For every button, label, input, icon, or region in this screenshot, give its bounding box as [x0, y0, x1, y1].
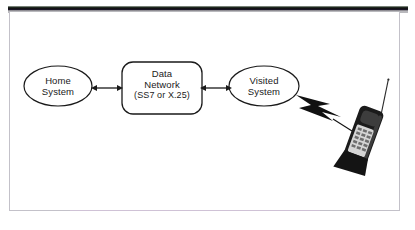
- lightning-bolt-tail: [333, 119, 352, 131]
- node-visited-system-line2: System: [229, 86, 299, 97]
- node-data-network-line1: Data: [120, 68, 204, 79]
- node-home-system-line2: System: [24, 86, 92, 97]
- diagram-canvas: [0, 0, 415, 230]
- node-data-network-line2: Network: [120, 79, 204, 90]
- node-visited-system-line1: Visited: [229, 75, 299, 86]
- mobile-phone: [333, 71, 399, 178]
- node-data-network-line3: (SS7 or X.25): [120, 90, 204, 101]
- connector-lightning-bolt: [296, 95, 341, 121]
- phone-antenna: [377, 80, 393, 114]
- node-home-system-line1: Home: [24, 75, 92, 86]
- phone-antenna-tip: [387, 78, 390, 81]
- node-visited-system-label: Visited System: [229, 75, 299, 97]
- node-home-system-label: Home System: [24, 75, 92, 97]
- scanned-figure: Home System Data Network (SS7 or X.25) V…: [0, 0, 415, 230]
- node-data-network-label: Data Network (SS7 or X.25): [120, 68, 204, 101]
